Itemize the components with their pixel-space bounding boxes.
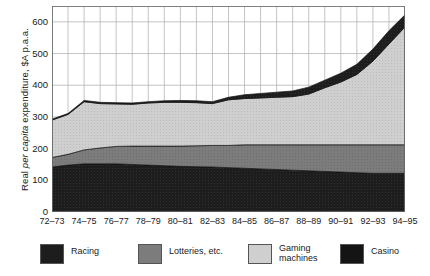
y-tick-label: 400 <box>22 80 48 90</box>
legend-label: Casino <box>371 243 399 256</box>
plot-area <box>52 6 405 212</box>
legend-item[interactable]: Gaming machines <box>248 243 318 264</box>
x-tick-label: 94–95 <box>385 216 425 226</box>
legend-swatch-icon <box>248 244 272 264</box>
legend-swatch-icon <box>40 244 64 264</box>
legend-label: Lotteries, etc. <box>169 243 223 256</box>
legend-item[interactable]: Racing <box>40 243 99 264</box>
chart-legend: RacingLotteries, etc.Gaming machinesCasi… <box>0 243 430 276</box>
chart-figure: Real per capita expenditure, $A p.a.a. 0… <box>0 0 430 276</box>
legend-label: Gaming machines <box>279 243 318 263</box>
stacked-area-svg <box>52 6 405 212</box>
y-tick-label: 100 <box>22 175 48 185</box>
legend-label: Racing <box>71 243 99 256</box>
y-tick-label: 500 <box>22 49 48 59</box>
y-tick-label: 600 <box>22 17 48 27</box>
legend-swatch-icon <box>340 244 364 264</box>
legend-swatch-icon <box>138 244 162 264</box>
x-axis-ticks: 72–7374–7576–7778–7980–8182–8384–8586–87… <box>0 216 430 230</box>
y-axis-ticks: 0100200300400500600 <box>18 0 48 276</box>
y-tick-label: 200 <box>22 144 48 154</box>
legend-item[interactable]: Casino <box>340 243 399 264</box>
legend-item[interactable]: Lotteries, etc. <box>138 243 223 264</box>
y-tick-label: 300 <box>22 112 48 122</box>
